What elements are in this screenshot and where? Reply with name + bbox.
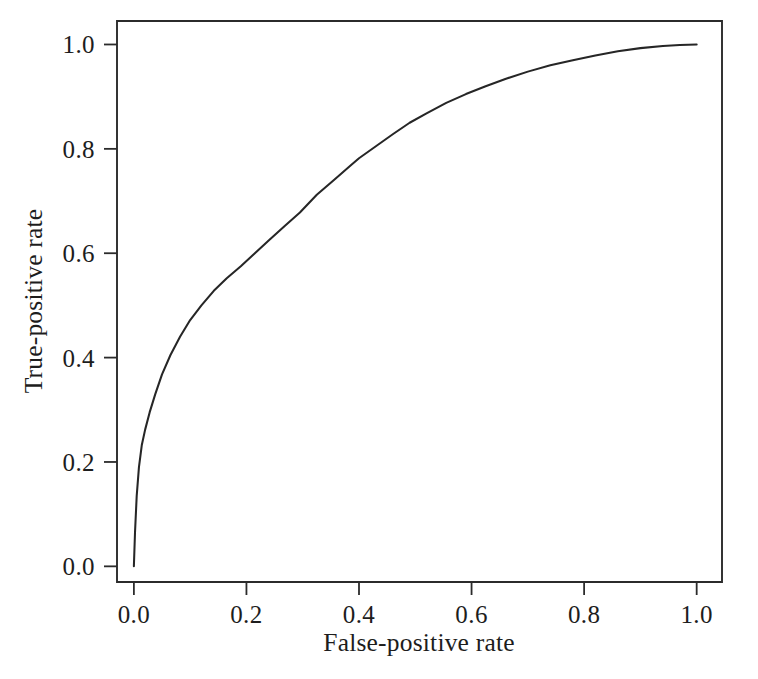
y-tick-label: 0.0	[63, 553, 95, 580]
roc-curve-figure: 0.00.20.40.60.81.0 0.00.20.40.60.81.0 Fa…	[0, 0, 758, 679]
plot-canvas: 0.00.20.40.60.81.0 0.00.20.40.60.81.0 Fa…	[0, 0, 758, 679]
x-tick-label: 0.4	[343, 601, 376, 628]
x-tick-label: 0.2	[230, 601, 262, 628]
y-tick-label: 0.4	[63, 345, 96, 372]
figure-background	[0, 0, 758, 679]
x-axis-title: False-positive rate	[323, 628, 514, 657]
y-tick-label: 0.6	[63, 240, 95, 267]
y-axis-title: True-positive rate	[19, 209, 48, 394]
x-tick-label: 0.8	[568, 601, 600, 628]
y-tick-label: 1.0	[63, 31, 95, 58]
y-tick-label: 0.2	[63, 449, 95, 476]
x-tick-label: 0.0	[118, 601, 150, 628]
y-tick-label: 0.8	[63, 136, 95, 163]
x-tick-label: 1.0	[680, 601, 712, 628]
x-tick-label: 0.6	[455, 601, 487, 628]
